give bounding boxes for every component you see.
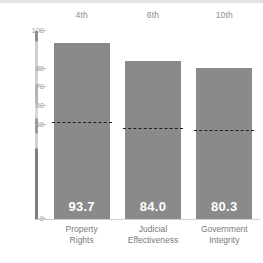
bar-government-integrity[interactable]: 80.3 — [196, 68, 252, 219]
category-label-row: Property Rights Judicial Effectiveness G… — [46, 224, 260, 246]
category-label-2-line2: Integrity — [189, 235, 260, 246]
plot-area: 93.7 84.0 80.3 — [46, 31, 260, 219]
bar-group: 93.7 84.0 80.3 — [46, 31, 260, 219]
y-tick-mark-50 — [39, 124, 46, 125]
y-tick-label-70: 70 — [0, 82, 44, 92]
y-tick-label-100: 100 — [0, 26, 44, 36]
category-label-1-line1: Judicial — [117, 224, 188, 235]
bar-value-1: 84.0 — [140, 199, 167, 214]
y-tick-label-50: 50 — [0, 120, 44, 130]
reference-line-2 — [194, 130, 254, 131]
category-label-0: Property Rights — [46, 224, 117, 246]
bar-property-rights[interactable]: 93.7 — [54, 43, 110, 219]
category-label-2-line1: Government — [189, 224, 260, 235]
bar-judicial-effectiveness[interactable]: 84.0 — [125, 61, 181, 219]
rank-label-1: 6th — [117, 8, 188, 22]
category-label-1: Judicial Effectiveness — [117, 224, 188, 246]
x-axis-baseline — [35, 219, 260, 220]
bar-slot-1: 84.0 — [117, 31, 188, 219]
reference-line-1 — [123, 128, 183, 129]
rank-label-row: 4th 6th 10th — [46, 8, 260, 22]
bar-chart: 4th 6th 10th 100807060500 93.7 84.0 — [0, 0, 263, 263]
bar-value-0: 93.7 — [68, 199, 95, 214]
bar-slot-2: 80.3 — [189, 31, 260, 219]
rank-label-2: 10th — [189, 8, 260, 22]
category-label-2: Government Integrity — [189, 224, 260, 246]
rank-label-0: 4th — [46, 8, 117, 22]
y-tick-label-60: 60 — [0, 101, 44, 111]
bar-slot-0: 93.7 — [46, 31, 117, 219]
y-tick-mark-100 — [39, 30, 46, 31]
category-label-0-line2: Rights — [46, 235, 117, 246]
category-label-1-line2: Effectiveness — [117, 235, 188, 246]
y-tick-label-80: 80 — [0, 64, 44, 74]
reference-line-0 — [52, 122, 112, 123]
y-tick-mark-60 — [39, 105, 46, 106]
y-tick-mark-80 — [39, 68, 46, 69]
y-tick-mark-70 — [39, 86, 46, 87]
bar-value-2: 80.3 — [211, 199, 238, 214]
category-label-0-line1: Property — [46, 224, 117, 235]
top-divider — [0, 0, 263, 3]
